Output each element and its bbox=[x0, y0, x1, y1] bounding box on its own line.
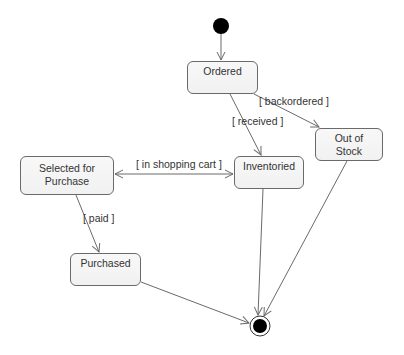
state-ordered[interactable]: Ordered bbox=[187, 61, 258, 94]
transition-purchased-to-final bbox=[141, 282, 249, 323]
guard-received: [ received ] bbox=[232, 115, 283, 127]
state-selected-for-purchase[interactable]: Selected for Purchase bbox=[20, 156, 114, 195]
transition-inventoried-to-final bbox=[258, 189, 263, 315]
state-selected-label-line2: Purchase bbox=[21, 175, 113, 188]
guard-backordered: [ backordered ] bbox=[259, 95, 329, 107]
state-out-of-stock-label-line2: Stock bbox=[316, 145, 382, 158]
state-purchased[interactable]: Purchased bbox=[70, 253, 141, 286]
final-state-node bbox=[253, 319, 267, 333]
state-out-of-stock-label-line1: Out of bbox=[316, 132, 382, 145]
guard-in-shopping-cart: [ in shopping cart ] bbox=[136, 158, 222, 170]
state-out-of-stock[interactable]: Out of Stock bbox=[315, 128, 383, 161]
state-purchased-label: Purchased bbox=[80, 257, 130, 269]
state-selected-label-line1: Selected for bbox=[21, 162, 113, 175]
initial-state-node bbox=[213, 18, 229, 34]
state-ordered-label: Ordered bbox=[203, 65, 242, 77]
state-inventoried[interactable]: Inventoried bbox=[234, 156, 304, 189]
state-inventoried-label: Inventoried bbox=[243, 160, 295, 172]
guard-paid: [ paid ] bbox=[83, 212, 115, 224]
